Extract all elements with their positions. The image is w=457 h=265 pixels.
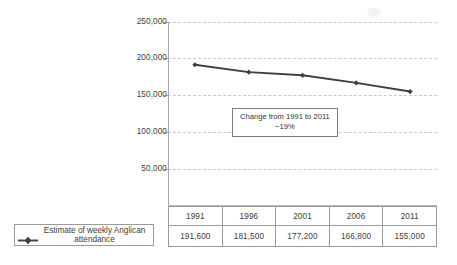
data-point-1991 bbox=[192, 62, 197, 67]
table-header-2001: 2001 bbox=[276, 207, 330, 226]
data-point-2011 bbox=[408, 89, 413, 94]
legend-label-line2: attendance bbox=[74, 235, 115, 244]
series-line-attendance bbox=[0, 0, 457, 206]
table-cell-2001: 177,200 bbox=[276, 226, 330, 247]
table-header-1996: 1996 bbox=[222, 207, 276, 226]
table-header-2011: 2011 bbox=[383, 207, 437, 226]
table-cell-2011: 155,000 bbox=[383, 226, 437, 247]
table-cell-2006: 166,800 bbox=[329, 226, 383, 247]
table-cell-1996: 181,500 bbox=[222, 226, 276, 247]
line-diamond-marker-icon bbox=[18, 231, 38, 240]
table-cell-1991: 191,600 bbox=[169, 226, 223, 247]
annotation-line-2: −19% bbox=[240, 122, 330, 132]
table-header-1991: 1991 bbox=[169, 207, 223, 226]
table-row: 191,600 181,500 177,200 166,800 155,000 bbox=[169, 226, 437, 247]
data-table-region: Estimate of weekly Anglican attendance 1… bbox=[0, 206, 457, 265]
data-point-2001 bbox=[300, 73, 305, 78]
legend-label-attendance: Estimate of weekly Anglican attendance bbox=[38, 226, 151, 245]
data-point-1996 bbox=[246, 70, 251, 75]
series-polyline bbox=[195, 65, 410, 92]
annotation-line-1: Change from 1991 to 2011 bbox=[240, 112, 330, 122]
chart-plot-region: 250,000 200,000 150,000 100,000 50,000 C… bbox=[0, 0, 457, 206]
change-annotation-callout: Change from 1991 to 2011 −19% bbox=[232, 108, 338, 137]
legend-label-line1: Estimate of weekly Anglican bbox=[44, 226, 145, 235]
table-header-row: 1991 1996 2001 2006 2011 bbox=[169, 207, 437, 226]
attendance-data-table: 1991 1996 2001 2006 2011 191,600 181,500… bbox=[168, 206, 437, 247]
legend-entry-attendance: Estimate of weekly Anglican attendance bbox=[14, 224, 154, 246]
data-point-2006 bbox=[354, 80, 359, 85]
table-header-2006: 2006 bbox=[329, 207, 383, 226]
series-markers bbox=[192, 62, 412, 94]
